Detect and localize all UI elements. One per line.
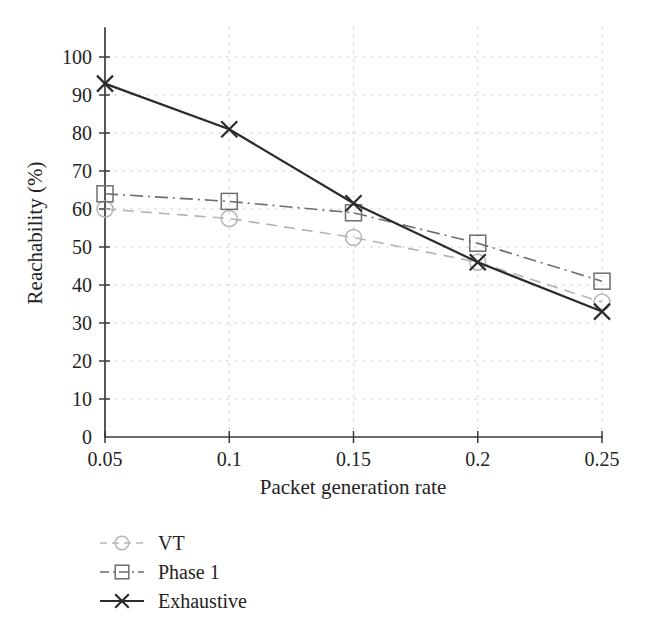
x-tick-label: 0.15 (336, 448, 371, 470)
y-tick-label: 50 (72, 236, 92, 258)
y-tick-label: 40 (72, 274, 92, 296)
legend-label: Phase 1 (158, 561, 220, 583)
x-tick-label: 0.2 (465, 448, 490, 470)
y-tick-label: 20 (72, 350, 92, 372)
chart-legend: VTPhase 1Exhaustive (100, 532, 247, 612)
legend-item-vt[interactable]: VT (100, 532, 185, 554)
y-tick-label: 90 (72, 84, 92, 106)
y-axis-title: Reachability (%) (23, 162, 47, 305)
series-vt (97, 201, 610, 310)
legend-item-phase-1[interactable]: Phase 1 (100, 561, 220, 583)
data-series-layer (97, 76, 610, 320)
x-axis-title: Packet generation rate (260, 475, 447, 499)
x-tick-label: 0.25 (585, 448, 620, 470)
legend-item-exhaustive[interactable]: Exhaustive (100, 590, 247, 612)
horizontal-gridlines (107, 57, 602, 399)
series-line (105, 209, 602, 302)
vertical-gridlines (229, 28, 602, 435)
y-tick-label: 10 (72, 388, 92, 410)
reachability-line-chart: 0102030405060708090100 0.050.10.150.20.2… (0, 0, 654, 627)
x-tick-label: 0.05 (88, 448, 123, 470)
y-tick-label: 80 (72, 122, 92, 144)
y-axis-tick-labels: 0102030405060708090100 (62, 46, 92, 448)
x-axis-tick-labels: 0.050.10.150.20.25 (88, 448, 620, 470)
x-tick-label: 0.1 (217, 448, 242, 470)
chart-figure: 0102030405060708090100 0.050.10.150.20.2… (0, 0, 654, 627)
y-tick-label: 30 (72, 312, 92, 334)
y-tick-label: 60 (72, 198, 92, 220)
y-tick-label: 0 (82, 426, 92, 448)
legend-label: Exhaustive (158, 590, 247, 612)
x-marker (346, 195, 362, 211)
legend-label: VT (158, 532, 185, 554)
y-tick-label: 100 (62, 46, 92, 68)
y-tick-label: 70 (72, 160, 92, 182)
